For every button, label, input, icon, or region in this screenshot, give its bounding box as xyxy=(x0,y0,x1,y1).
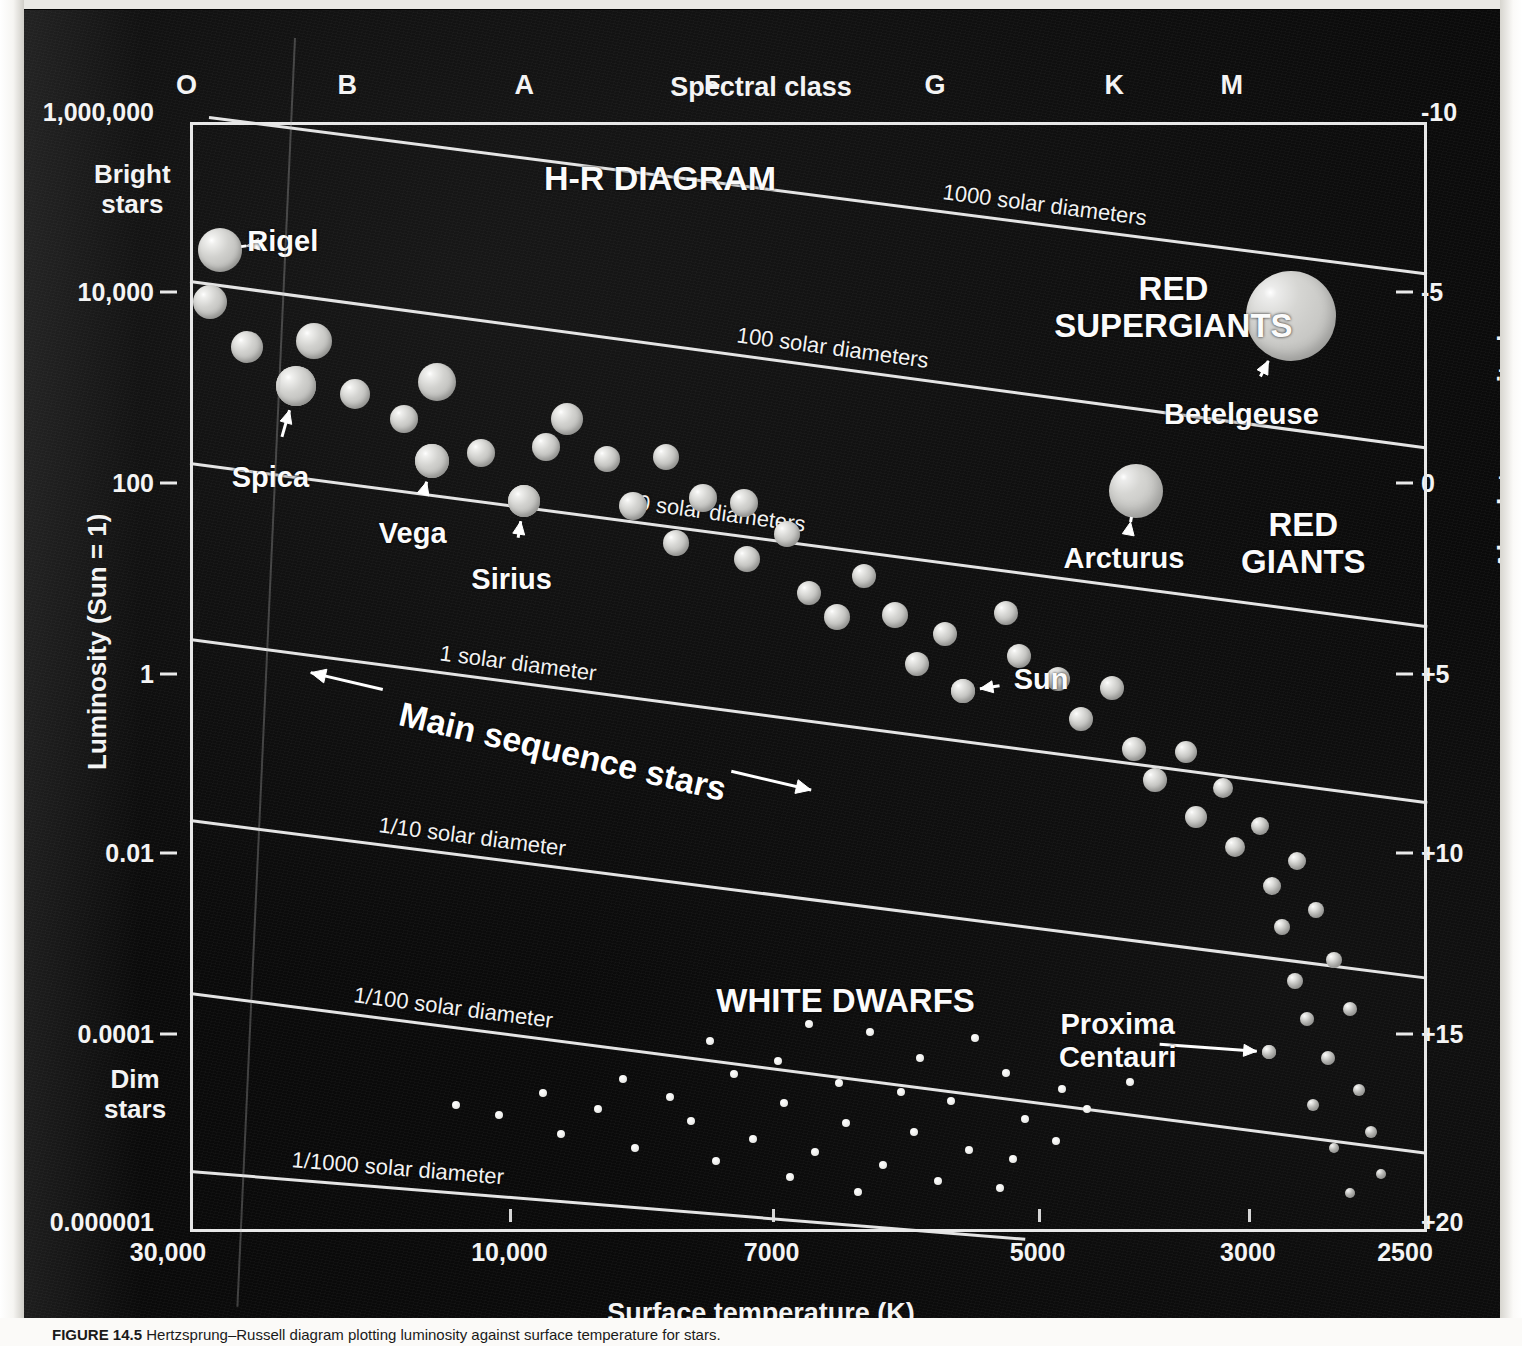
luminosity-tick-mark xyxy=(160,290,177,293)
luminosity-tick-label: 100 xyxy=(112,468,154,497)
absolute-magnitude-tick-label: +10 xyxy=(1421,839,1463,868)
plot-frame-border xyxy=(190,122,1427,1232)
luminosity-tick-label: 0.000001 xyxy=(50,1208,154,1237)
luminosity-axis-title: Luminosity (Sun = 1) xyxy=(82,514,113,770)
figure-plate: Spectral class OBAFGKM Luminosity (Sun =… xyxy=(22,10,1500,1318)
spectral-class-M: M xyxy=(1221,70,1244,101)
figure-page: Spectral class OBAFGKM Luminosity (Sun =… xyxy=(0,0,1522,1346)
spectral-class-F: F xyxy=(704,70,721,101)
temperature-tick-label: 3000 xyxy=(1220,1238,1276,1267)
hr-diagram-plot: 1000 solar diameters100 solar diameters1… xyxy=(190,122,1427,1232)
luminosity-tick-mark xyxy=(160,481,177,484)
luminosity-tick-label: 0.01 xyxy=(105,839,154,868)
temperature-tick-label: 10,000 xyxy=(471,1238,547,1267)
absolute-magnitude-tick-label: +15 xyxy=(1421,1020,1463,1049)
absolute-magnitude-tick-label: +20 xyxy=(1421,1208,1463,1237)
temperature-tick-label: 7000 xyxy=(744,1238,800,1267)
temperature-tick-label: 5000 xyxy=(1010,1238,1066,1267)
spectral-class-K: K xyxy=(1105,70,1125,101)
luminosity-tick-label: 1 xyxy=(140,659,154,688)
luminosity-tick-mark xyxy=(160,1033,177,1036)
brightness-note: Bright stars xyxy=(94,160,171,220)
spectral-class-O: O xyxy=(176,70,197,101)
page-gutter xyxy=(0,0,24,1318)
figure-caption-number: FIGURE 14.5 xyxy=(52,1326,142,1343)
temperature-tick-label: 30,000 xyxy=(130,1238,206,1267)
temperature-tick-label: 2500 xyxy=(1377,1238,1433,1267)
spectral-class-axis-title: Spectral class xyxy=(22,72,1500,103)
luminosity-tick-mark xyxy=(160,672,177,675)
figure-caption: FIGURE 14.5 Hertzsprung–Russell diagram … xyxy=(52,1326,1482,1346)
luminosity-tick-label: 0.0001 xyxy=(78,1020,154,1049)
brightness-note: Dim stars xyxy=(104,1065,166,1125)
luminosity-tick-label: 10,000 xyxy=(78,277,154,306)
figure-caption-text: Hertzsprung–Russell diagram plotting lum… xyxy=(146,1326,720,1343)
luminosity-tick-mark xyxy=(160,852,177,855)
page-right-margin xyxy=(1500,0,1522,1318)
luminosity-tick-label: 1,000,000 xyxy=(43,98,154,127)
spectral-class-G: G xyxy=(924,70,945,101)
spectral-class-A: A xyxy=(515,70,535,101)
spectral-class-B: B xyxy=(338,70,358,101)
